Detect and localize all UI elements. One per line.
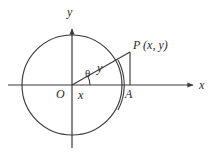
figure-container: x y O x y θ A P (x, y) bbox=[0, 0, 215, 155]
leg-y-label: y bbox=[97, 62, 102, 74]
leg-x-label: x bbox=[78, 89, 83, 101]
geometry-diagram bbox=[0, 0, 215, 155]
point-p-label: P (x, y) bbox=[133, 39, 168, 51]
x-axis-label: x bbox=[199, 79, 204, 91]
point-a-label: A bbox=[125, 88, 132, 100]
y-axis-label: y bbox=[67, 6, 72, 18]
origin-label: O bbox=[56, 88, 65, 100]
angle-theta-label: θ bbox=[85, 68, 90, 79]
